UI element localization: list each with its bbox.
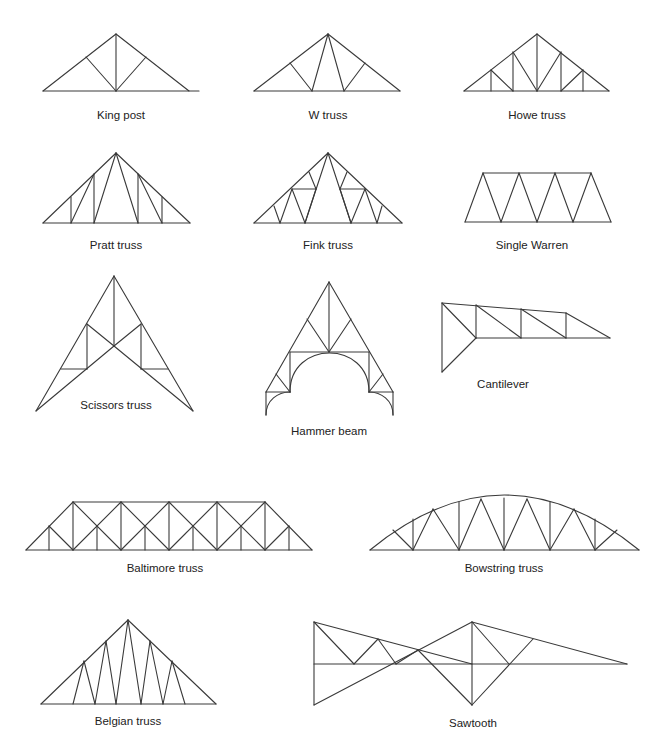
truss-label-baltimore-truss: Baltimore truss: [127, 562, 204, 574]
truss-member: [537, 173, 555, 222]
truss-label-scissors-truss: Scissors truss: [80, 399, 152, 411]
truss-member: [116, 57, 146, 91]
truss-member: [555, 173, 573, 222]
truss-belgian-truss: [41, 620, 216, 704]
truss-label-bowstring-truss: Bowstring truss: [465, 562, 544, 574]
truss-label-single-warren: Single Warren: [496, 239, 568, 251]
truss-pratt-truss: [43, 153, 190, 223]
truss-member: [87, 324, 114, 346]
truss-member: [114, 276, 193, 411]
truss-member: [128, 620, 141, 704]
truss-member: [141, 641, 150, 704]
truss-member: [537, 52, 561, 91]
truss-member: [86, 57, 116, 91]
truss-member: [314, 622, 354, 664]
truss-sawtooth: [314, 622, 627, 705]
truss-member: [43, 34, 116, 91]
truss-member: [396, 650, 418, 664]
truss-member: [550, 509, 574, 550]
truss-label-fink-truss: Fink truss: [303, 239, 353, 251]
truss-member: [491, 70, 513, 91]
truss-member: [561, 70, 583, 91]
truss-member: [476, 305, 521, 338]
truss-howe-truss: [464, 34, 609, 91]
truss-arc-member: [369, 392, 393, 415]
truss-label-hammer-beam: Hammer beam: [291, 425, 367, 437]
truss-w-truss: [254, 34, 400, 91]
truss-label-cantilever: Cantilever: [477, 378, 529, 390]
truss-member: [49, 526, 73, 550]
truss-member: [84, 661, 95, 704]
truss-member: [354, 639, 378, 664]
truss-member: [163, 661, 172, 704]
truss-member: [106, 641, 116, 704]
truss-member: [433, 509, 459, 550]
truss-baltimore-truss: [26, 502, 312, 550]
truss-member: [71, 174, 94, 223]
truss-member: [369, 374, 383, 392]
truss-member: [340, 189, 351, 223]
truss-member: [307, 319, 329, 352]
truss-member: [36, 276, 114, 411]
truss-member: [351, 189, 365, 223]
truss-member: [513, 52, 537, 91]
truss-arc-member: [266, 392, 290, 415]
truss-member: [464, 34, 537, 91]
truss-member: [280, 189, 292, 223]
truss-member: [472, 622, 509, 664]
truss-member: [595, 530, 617, 550]
truss-king-post: [43, 34, 199, 91]
truss-member: [465, 173, 483, 222]
truss-member: [459, 499, 481, 550]
truss-label-king-post: King post: [97, 109, 145, 121]
truss-label-belgian-truss: Belgian truss: [95, 715, 161, 727]
truss-member: [150, 641, 163, 704]
truss-scissors-truss: [36, 276, 193, 411]
truss-member: [265, 526, 289, 550]
truss-member: [116, 34, 189, 91]
truss-member: [290, 63, 312, 91]
truss-fink-truss: [254, 153, 402, 223]
truss-hammer-beam: [266, 282, 393, 415]
truss-member: [393, 530, 413, 550]
truss-member: [442, 303, 566, 313]
truss-member: [483, 173, 501, 222]
truss-member: [537, 34, 609, 91]
truss-member: [305, 189, 316, 223]
truss-member: [292, 189, 305, 223]
truss-single-warren: [465, 173, 611, 222]
truss-cantilever: [442, 303, 610, 372]
truss-arc-member: [290, 353, 369, 392]
truss-label-pratt-truss: Pratt truss: [90, 239, 142, 251]
truss-member: [442, 303, 476, 338]
truss-member: [566, 313, 610, 338]
truss-member: [521, 309, 566, 338]
truss-member: [328, 34, 344, 91]
truss-member: [138, 174, 162, 223]
truss-member: [472, 622, 627, 664]
truss-member: [116, 620, 128, 704]
truss-member: [591, 173, 611, 222]
truss-member: [276, 374, 290, 392]
truss-member: [344, 63, 365, 91]
truss-member: [527, 499, 550, 550]
truss-member: [418, 650, 472, 705]
truss-label-sawtooth: Sawtooth: [449, 717, 497, 729]
truss-member: [501, 173, 519, 222]
truss-member: [114, 324, 141, 346]
truss-member: [309, 172, 316, 189]
truss-bowstring-truss: [370, 495, 639, 550]
truss-member: [274, 206, 280, 223]
truss-member: [314, 622, 472, 664]
truss-member: [472, 639, 533, 705]
truss-member: [442, 338, 476, 372]
truss-label-howe-truss: Howe truss: [508, 109, 566, 121]
truss-member: [328, 34, 400, 91]
truss-member: [312, 34, 328, 91]
truss-member: [329, 319, 351, 352]
truss-member: [481, 499, 504, 550]
truss-label-w-truss: W truss: [309, 109, 348, 121]
truss-member: [340, 172, 347, 189]
truss-member: [504, 499, 527, 550]
truss-member: [377, 206, 382, 223]
